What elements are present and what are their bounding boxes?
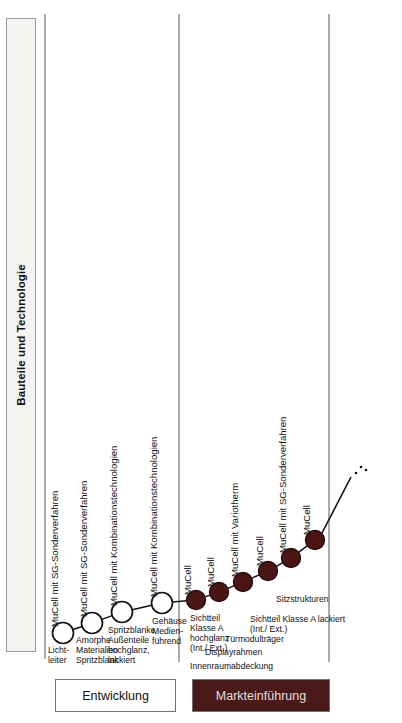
- node-title-n6: MuCell: [205, 557, 215, 587]
- node-caption-n3: Spritzblanke Außenteile hochglanz, lacki…: [108, 625, 158, 666]
- node-title-n8: MuCell: [254, 536, 264, 566]
- connector-segment: [252, 575, 260, 578]
- node-caption-n8: Türmodulträger: [225, 634, 345, 644]
- node-caption-n6: Innenraumabdeckung: [190, 661, 310, 671]
- trend-dot-3: [365, 469, 368, 472]
- connector-segment: [276, 563, 282, 567]
- trend-dot-2: [360, 466, 363, 469]
- node-caption-n4: Gehäuse Medien- führend: [152, 616, 186, 646]
- node-caption-n10: Sitzstrukturen: [276, 594, 396, 604]
- node-title-n9: MuCell mit SG-Sonderverfahren: [277, 416, 287, 553]
- node-title-n7: MuCell mit Variotherm: [229, 482, 239, 576]
- node-title-n2: MuCell mit SG-Sonderverfahren: [78, 480, 88, 617]
- node-title-n1: MuCell mit SG-Sonderverfahren: [49, 490, 59, 627]
- connector-segment: [205, 595, 210, 597]
- trend-dot-1: [355, 472, 358, 475]
- node-title-n5: MuCell: [182, 565, 192, 595]
- connector-segment: [228, 586, 234, 589]
- trend-continuation-segment: [322, 477, 351, 533]
- connector-segment: [73, 626, 82, 629]
- connector-segment: [102, 616, 112, 620]
- phase-bar-market-launch: Markteinführung: [192, 679, 330, 712]
- node-title-n3: MuCell mit Kombinationstechnologien: [108, 445, 118, 606]
- node-caption-n9: Sichtteil Klasse A lackiert (Int./ Ext.): [250, 614, 390, 634]
- node-caption-n7: Displayrahmen: [205, 647, 325, 657]
- connector-segment: [132, 605, 152, 609]
- trend-ellipsis-dots: [355, 466, 368, 475]
- connector-segment: [299, 546, 308, 553]
- node-title-n4: MuCell mit Kombinationstechnologien: [148, 436, 158, 597]
- connector-segment: [172, 601, 186, 602]
- diagram-canvas: Bauteile und Technologie MuCell mit SG-S…: [0, 0, 402, 723]
- trend-continuation-line: [322, 477, 351, 533]
- phase-bar-development: Entwicklung: [55, 679, 176, 712]
- node-title-n10: MuCell: [301, 505, 311, 535]
